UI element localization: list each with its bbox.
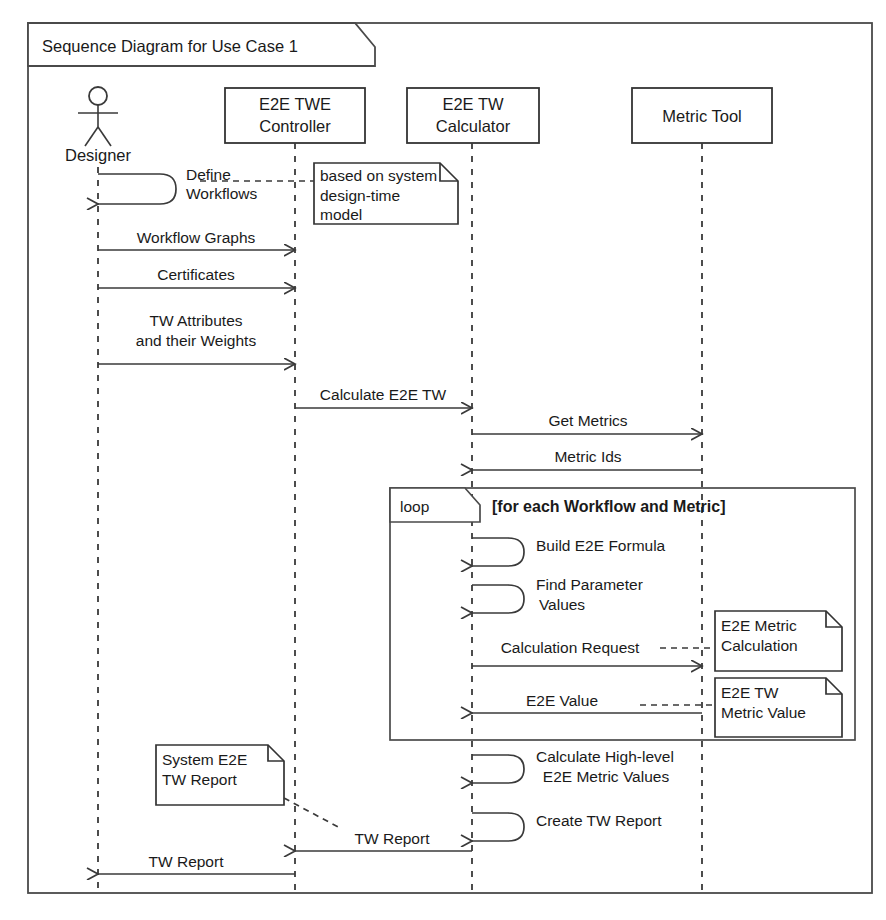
message-arrow-build-e2e-formula [472,538,524,566]
message-arrow-calculate-high-level [472,755,524,783]
diagram-svg: Sequence Diagram for Use Case 1 Designer… [0,0,886,920]
message-certificates[interactable]: Certificates [98,266,295,288]
message-e2e-value[interactable]: E2E Value [472,692,702,713]
note-e2e-tw-metric-value-line1: E2E TW [721,684,779,701]
note-system-e2e-tw-report-line1: System E2E [162,751,247,768]
message-define-workflows[interactable]: Define Workflows [98,166,257,204]
sequence-diagram-canvas: Sequence Diagram for Use Case 1 Designer… [0,0,886,920]
message-label-tw-report-to-controller: TW Report [355,830,431,847]
message-label-certificates: Certificates [157,266,235,283]
message-label-e2e-value: E2E Value [526,692,598,709]
message-label-calculate-high-level-line2: E2E Metric Values [543,768,670,785]
note-design-time-line1: based on system [320,167,437,184]
lifeline-label-calculator-line2: Calculator [436,117,511,135]
lifeline-designer[interactable]: Designer [65,87,132,891]
message-label-get-metrics: Get Metrics [548,412,627,429]
lifeline-label-metrictool-line1: Metric Tool [662,107,741,125]
actor-leg-right-icon [98,127,111,146]
message-tw-report-to-designer[interactable]: TW Report [98,853,295,874]
note-e2e-tw-metric-value-line2: Metric Value [721,704,806,721]
message-arrow-define-workflows [98,174,176,204]
message-create-tw-report[interactable]: Create TW Report [472,812,662,841]
message-label-define-workflows-line2: Workflows [186,185,257,202]
message-find-parameter-values[interactable]: Find Parameter Values [472,576,643,613]
message-calculate-high-level[interactable]: Calculate High-level E2E Metric Values [472,748,674,785]
note-design-time-line2: design-time [320,187,400,204]
message-metric-ids[interactable]: Metric Ids [472,448,702,470]
message-label-calculate-e2e-tw: Calculate E2E TW [320,386,447,403]
message-label-metric-ids: Metric Ids [554,448,621,465]
note-system-e2e-tw-report[interactable]: System E2E TW Report [156,745,340,828]
message-label-tw-report-to-designer: TW Report [149,853,225,870]
message-label-tw-attributes-line1: TW Attributes [149,312,242,329]
message-label-calculation-request: Calculation Request [501,639,640,656]
message-label-tw-attributes-line2: and their Weights [136,332,257,349]
note-design-time-line3: model [320,206,362,223]
loop-operator-label: loop [400,498,429,515]
note-system-e2e-tw-report-line2: TW Report [162,771,238,788]
message-arrow-find-parameter-values [472,585,524,613]
note-e2e-metric-calculation-line2: Calculation [721,637,798,654]
lifeline-label-designer: Designer [65,146,132,164]
note-e2e-metric-calculation-line1: E2E Metric [721,617,797,634]
message-label-find-parameter-values-line1: Find Parameter [536,576,643,593]
lifeline-label-controller-line2: Controller [259,117,331,135]
message-arrow-create-tw-report [472,813,524,841]
message-label-create-tw-report: Create TW Report [536,812,662,829]
actor-head-icon [89,87,107,105]
message-workflow-graphs[interactable]: Workflow Graphs [98,229,295,250]
frame-title-label: Sequence Diagram for Use Case 1 [42,37,298,55]
actor-leg-left-icon [85,127,98,146]
message-label-build-e2e-formula: Build E2E Formula [536,537,666,554]
message-calculate-e2e-tw[interactable]: Calculate E2E TW [295,386,472,408]
note-e2e-tw-metric-value[interactable]: E2E TW Metric Value [640,678,842,737]
message-calculation-request[interactable]: Calculation Request [472,639,702,666]
message-label-workflow-graphs: Workflow Graphs [137,229,256,246]
message-label-calculate-high-level-line1: Calculate High-level [536,748,674,765]
diagram-frame: Sequence Diagram for Use Case 1 [28,23,872,893]
note-e2e-metric-calculation[interactable]: E2E Metric Calculation [660,611,842,671]
lifeline-label-controller-line1: E2E TWE [259,95,331,113]
message-tw-attributes[interactable]: TW Attributes and their Weights [98,312,295,364]
note-system-e2e-tw-report-anchor [284,798,340,828]
loop-guard-label: [for each Workflow and Metric] [492,498,726,515]
message-build-e2e-formula[interactable]: Build E2E Formula [472,537,666,566]
message-tw-report-to-controller[interactable]: TW Report [295,830,472,851]
message-label-find-parameter-values-line2: Values [539,596,585,613]
lifeline-label-calculator-line1: E2E TW [442,95,504,113]
message-get-metrics[interactable]: Get Metrics [472,412,702,434]
